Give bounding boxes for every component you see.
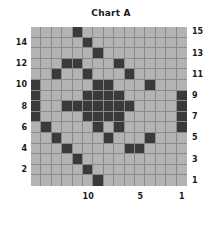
- heatmap-cell: [104, 144, 114, 155]
- heatmap-cell: [83, 144, 93, 155]
- heatmap-cell: [52, 165, 62, 176]
- heatmap-cell: [62, 80, 72, 91]
- heatmap-cell: [83, 48, 93, 59]
- heatmap-cell: [41, 80, 51, 91]
- heatmap-cell: [93, 133, 103, 144]
- heatmap-cell: [62, 101, 72, 112]
- heatmap-cell: [73, 101, 83, 112]
- heatmap-cell: [93, 59, 103, 70]
- heatmap-cell: [62, 27, 72, 38]
- heatmap-cell: [62, 154, 72, 165]
- heatmap-cell: [93, 101, 103, 112]
- heatmap-cell: [52, 59, 62, 70]
- heatmap-cell: [93, 69, 103, 80]
- heatmap-cell: [83, 38, 93, 49]
- heatmap-cell: [104, 165, 114, 176]
- heatmap-cell: [93, 112, 103, 123]
- heatmap-cell: [104, 112, 114, 123]
- heatmap-cell: [114, 175, 124, 186]
- heatmap-cell: [166, 27, 176, 38]
- heatmap-cell: [166, 59, 176, 70]
- heatmap-cell: [83, 112, 93, 123]
- heatmap-cell: [177, 69, 187, 80]
- heatmap-cell: [93, 48, 103, 59]
- heatmap-cell: [62, 122, 72, 133]
- heatmap-cell: [145, 91, 155, 102]
- heatmap-cell: [52, 101, 62, 112]
- heatmap-cell: [62, 48, 72, 59]
- heatmap-cell: [114, 112, 124, 123]
- heatmap-cell: [52, 48, 62, 59]
- heatmap-cell: [41, 69, 51, 80]
- heatmap-cell: [135, 38, 145, 49]
- heatmap-cell: [166, 133, 176, 144]
- y-axis-right: 15131197531: [187, 27, 222, 186]
- heatmap-cell: [104, 175, 114, 186]
- heatmap-cell: [156, 101, 166, 112]
- x-axis-tick-label: 10: [83, 193, 94, 201]
- heatmap-cell: [145, 101, 155, 112]
- heatmap-cell: [31, 175, 41, 186]
- heatmap-cell: [125, 101, 135, 112]
- heatmap-cell: [125, 59, 135, 70]
- heatmap-cell: [114, 144, 124, 155]
- heatmap-cell: [41, 133, 51, 144]
- heatmap-cell: [125, 122, 135, 133]
- heatmap-cell: [52, 122, 62, 133]
- heatmap-cell: [73, 69, 83, 80]
- heatmap-cell: [62, 59, 72, 70]
- heatmap-cell: [62, 175, 72, 186]
- heatmap-cell: [166, 175, 176, 186]
- heatmap-cell: [93, 175, 103, 186]
- heatmap-cell: [41, 154, 51, 165]
- heatmap-cell: [145, 59, 155, 70]
- heatmap-cell: [52, 69, 62, 80]
- heatmap-cell: [62, 165, 72, 176]
- heatmap-cell: [135, 69, 145, 80]
- heatmap-cell: [135, 101, 145, 112]
- heatmap-cell: [104, 80, 114, 91]
- heatmap-cell: [135, 122, 145, 133]
- heatmap-cell: [177, 91, 187, 102]
- heatmap-cell: [166, 122, 176, 133]
- heatmap-cell: [52, 144, 62, 155]
- heatmap-cell: [104, 101, 114, 112]
- heatmap-cell: [104, 69, 114, 80]
- heatmap-cell: [145, 80, 155, 91]
- heatmap-cell: [125, 175, 135, 186]
- heatmap-cell: [125, 144, 135, 155]
- heatmap-cell: [177, 59, 187, 70]
- heatmap-cell: [73, 133, 83, 144]
- heatmap-cell: [156, 122, 166, 133]
- heatmap-cell: [166, 48, 176, 59]
- heatmap-cell: [93, 91, 103, 102]
- heatmap-cell: [104, 48, 114, 59]
- heatmap-cell: [73, 154, 83, 165]
- heatmap-cell: [135, 27, 145, 38]
- heatmap-cell: [114, 59, 124, 70]
- heatmap-cell: [104, 91, 114, 102]
- heatmap-cell: [52, 112, 62, 123]
- heatmap-cell: [156, 38, 166, 49]
- heatmap-cell: [83, 27, 93, 38]
- heatmap-cell: [41, 112, 51, 123]
- heatmap-cell: [166, 38, 176, 49]
- y-axis-right-tick-label: 9: [187, 92, 222, 100]
- heatmap-cell: [125, 27, 135, 38]
- heatmap-cell: [145, 133, 155, 144]
- heatmap-cell: [83, 80, 93, 91]
- heatmap-cell: [114, 91, 124, 102]
- heatmap-cell: [104, 27, 114, 38]
- heatmap-cell: [41, 27, 51, 38]
- heatmap-cell: [125, 112, 135, 123]
- heatmap-cell: [114, 101, 124, 112]
- heatmap-cell: [93, 154, 103, 165]
- heatmap-cell: [166, 91, 176, 102]
- heatmap-cell: [114, 38, 124, 49]
- heatmap-cell: [145, 48, 155, 59]
- heatmap-cell: [73, 165, 83, 176]
- heatmap-cell: [177, 175, 187, 186]
- heatmap-cell: [145, 122, 155, 133]
- heatmap-cell: [135, 80, 145, 91]
- y-axis-right-tick-label: 11: [187, 71, 222, 79]
